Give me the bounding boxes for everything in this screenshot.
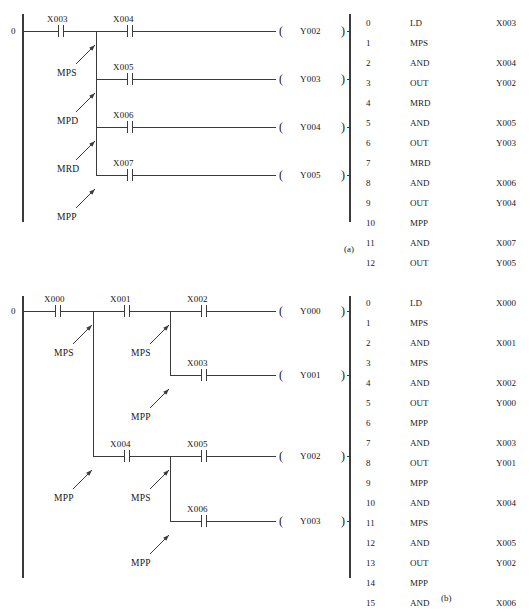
instruction-operand: X005: [496, 118, 516, 128]
instruction-operand: X005: [496, 538, 516, 548]
instruction-mnemonic: AND: [410, 498, 430, 508]
instruction-step: 0: [366, 18, 388, 28]
instruction-step: 2: [366, 338, 388, 348]
instruction-operand: Y002: [496, 78, 516, 88]
ladder-diagram-b: 0 X000 X001 X002 X003 X004 X005 X006 ( Y…: [0, 0, 532, 615]
coil-close-paren-b-0: ): [341, 305, 345, 317]
instruction-operand: X003: [496, 438, 516, 448]
coil-close-paren-b-2: ): [341, 450, 345, 462]
instruction-operand: Y001: [496, 458, 516, 468]
instruction-mnemonic: OUT: [410, 558, 429, 568]
instruction-mnemonic: AND: [410, 238, 430, 248]
instruction-step: 11: [366, 518, 388, 528]
instruction-mnemonic: AND: [410, 118, 430, 128]
instruction-operand: X004: [496, 58, 516, 68]
instruction-step: 4: [366, 378, 388, 388]
instruction-mnemonic: MPS: [410, 38, 428, 48]
rung-index-b: 0: [11, 306, 16, 316]
instruction-step: 1: [366, 38, 388, 48]
instruction-mnemonic: MPS: [410, 318, 428, 328]
instruction-step: 2: [366, 58, 388, 68]
instruction-mnemonic: OUT: [410, 138, 429, 148]
instruction-mnemonic: OUT: [410, 458, 429, 468]
instruction-mnemonic: LD: [410, 298, 422, 308]
instruction-step: 0: [366, 298, 388, 308]
instruction-step: 10: [366, 498, 388, 508]
instruction-operand: X004: [496, 498, 516, 508]
instruction-mnemonic: MPP: [410, 478, 428, 488]
instruction-step: 3: [366, 358, 388, 368]
stack-note-b-0: MPS: [54, 348, 74, 358]
stack-note-b-3: MPP: [54, 493, 74, 503]
instruction-mnemonic: AND: [410, 378, 430, 388]
instruction-operand: X007: [496, 238, 516, 248]
contact-label-b-0-1: X002: [187, 294, 208, 304]
instruction-step: 8: [366, 458, 388, 468]
contact-label-b-1-0: X003: [187, 358, 208, 368]
instruction-step: 10: [366, 218, 388, 228]
instruction-operand: X000: [496, 298, 516, 308]
instruction-step: 12: [366, 258, 388, 268]
instruction-step: 7: [366, 158, 388, 168]
contact-label-b-0-0: X001: [110, 294, 131, 304]
instruction-mnemonic: OUT: [410, 78, 429, 88]
instruction-operand: Y002: [496, 558, 516, 568]
instruction-step: 9: [366, 478, 388, 488]
coil-label-b-2: Y002: [300, 451, 321, 461]
instruction-operand: Y000: [496, 398, 516, 408]
instruction-step: 9: [366, 198, 388, 208]
instruction-mnemonic: AND: [410, 438, 430, 448]
instruction-mnemonic: AND: [410, 338, 430, 348]
instruction-mnemonic: AND: [410, 58, 430, 68]
stack-note-b-4: MPS: [131, 493, 151, 503]
instruction-step: 4: [366, 98, 388, 108]
instruction-step: 12: [366, 538, 388, 548]
instruction-operand: X002: [496, 378, 516, 388]
instruction-mnemonic: MRD: [410, 158, 431, 168]
contact-label-b-3-0: X006: [187, 504, 208, 514]
coil-open-paren-b-2: (: [279, 450, 283, 462]
instruction-operand: X006: [496, 178, 516, 188]
instruction-step: 1: [366, 318, 388, 328]
instruction-mnemonic: MPP: [410, 578, 428, 588]
instruction-step: 14: [366, 578, 388, 588]
instruction-mnemonic: LD: [410, 18, 422, 28]
instruction-mnemonic: OUT: [410, 198, 429, 208]
coil-open-paren-b-1: (: [279, 369, 283, 381]
instruction-step: 6: [366, 138, 388, 148]
instruction-step: 15: [366, 598, 388, 608]
instruction-operand: X006: [496, 598, 516, 608]
figure-caption-b: (b): [441, 593, 452, 603]
stack-note-b-5: MPP: [131, 558, 151, 568]
instruction-step: 5: [366, 398, 388, 408]
instruction-step: 8: [366, 178, 388, 188]
coil-label-b-1: Y001: [300, 370, 321, 380]
instruction-mnemonic: OUT: [410, 258, 429, 268]
coil-open-paren-b-3: (: [279, 515, 283, 527]
instruction-mnemonic: AND: [410, 538, 430, 548]
contact-label-b-2-0: X004: [110, 439, 131, 449]
instruction-step: 6: [366, 418, 388, 428]
instruction-mnemonic: AND: [410, 178, 430, 188]
figure-caption-a: (a): [344, 244, 354, 254]
instruction-operand: Y004: [496, 198, 516, 208]
coil-close-paren-b-3: ): [341, 515, 345, 527]
coil-close-paren-b-1: ): [341, 369, 345, 381]
instruction-mnemonic: MPS: [410, 358, 428, 368]
instruction-operand: X003: [496, 18, 516, 28]
instruction-step: 3: [366, 78, 388, 88]
instruction-operand: Y003: [496, 138, 516, 148]
instruction-mnemonic: MRD: [410, 98, 431, 108]
stack-note-b-1: MPS: [131, 348, 151, 358]
contact-label-b-2-1: X005: [187, 439, 208, 449]
contact-label-x000: X000: [44, 294, 65, 304]
instruction-mnemonic: MPP: [410, 418, 428, 428]
instruction-step: 13: [366, 558, 388, 568]
instruction-mnemonic: MPP: [410, 218, 428, 228]
stack-note-b-2: MPP: [131, 412, 151, 422]
coil-label-b-0: Y000: [300, 306, 321, 316]
instruction-mnemonic: OUT: [410, 398, 429, 408]
instruction-mnemonic: MPS: [410, 518, 428, 528]
instruction-mnemonic: AND: [410, 598, 430, 608]
instruction-step: 11: [366, 238, 388, 248]
